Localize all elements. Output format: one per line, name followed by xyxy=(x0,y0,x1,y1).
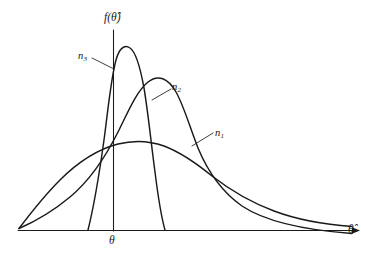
curve-label-n2-base: n xyxy=(172,81,177,92)
leader-line-n2 xyxy=(152,89,171,100)
curve-label-n2-subscript: 2 xyxy=(178,86,182,94)
curve-label-n3: n3 xyxy=(78,51,87,63)
sampling-distribution-plot xyxy=(0,0,377,256)
curve-n3 xyxy=(88,47,165,230)
y-axis-label: f(θ̂) xyxy=(104,12,121,24)
curve-n2 xyxy=(19,78,352,234)
curve-label-n1-base: n xyxy=(215,127,220,138)
curve-label-n1: n1 xyxy=(215,128,224,140)
x-axis-label: θ̂ xyxy=(348,224,354,236)
origin-tick-label: θ xyxy=(109,235,115,247)
figure-canvas: f(θ̂) θ̂ θ n1 n2 n3 xyxy=(0,0,377,256)
curve-label-n1-subscript: 1 xyxy=(221,132,225,140)
curve-label-n3-base: n xyxy=(78,50,83,61)
curve-label-n3-subscript: 3 xyxy=(84,55,88,63)
curve-n1 xyxy=(19,142,352,229)
curve-label-n2: n2 xyxy=(172,82,181,94)
leader-line-n3 xyxy=(92,58,114,69)
